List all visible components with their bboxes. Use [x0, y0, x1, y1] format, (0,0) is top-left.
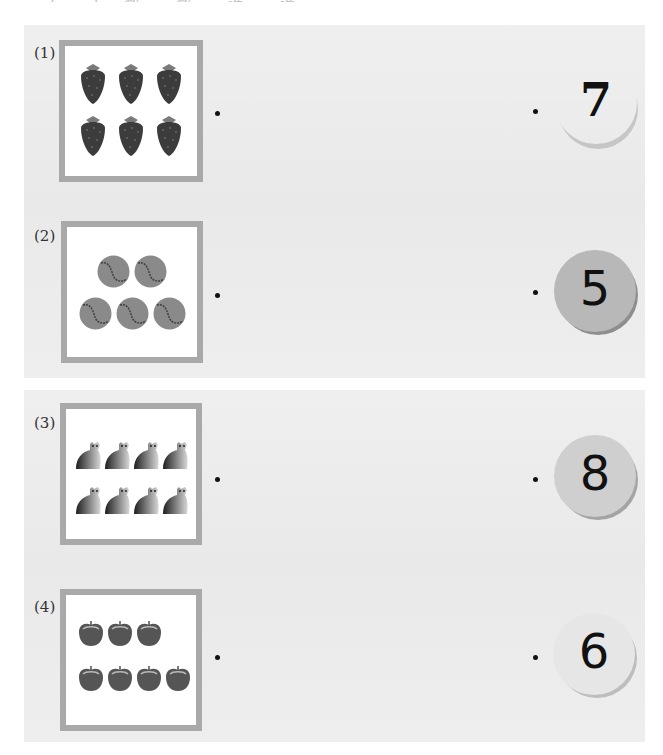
polar-bear-icon [74, 440, 102, 471]
problem-2: (2) 5 [0, 210, 663, 385]
match-dot-left[interactable] [215, 477, 220, 482]
tennis-ball-icon [97, 255, 130, 288]
match-dot-right[interactable] [533, 477, 538, 482]
apple-icon [78, 621, 104, 647]
number-value: 8 [580, 445, 611, 501]
polar-bear-icon [132, 485, 160, 516]
polar-bear-icon [103, 485, 131, 516]
polar-bear-icon [103, 440, 131, 471]
apple-row [66, 666, 196, 692]
tennis-ball-icon [153, 297, 186, 330]
strawberry-icon [114, 62, 148, 106]
apple-icon [136, 621, 162, 647]
polar-bear-row [66, 440, 196, 471]
picture-frame [59, 40, 203, 182]
apple-icon [165, 666, 191, 692]
strawberry-row [65, 62, 197, 106]
problem-1: (1) 7 [0, 25, 663, 200]
match-dot-right[interactable] [533, 655, 538, 660]
match-dot-right[interactable] [533, 290, 538, 295]
tennis-ball-row [67, 297, 197, 330]
tennis-ball-icon [79, 297, 112, 330]
number-badge: 6 [553, 613, 635, 695]
polar-bear-icon [74, 485, 102, 516]
polar-bear-icon [161, 485, 189, 516]
tennis-ball-icon [134, 255, 167, 288]
number-value: 6 [579, 623, 610, 679]
strawberry-icon [76, 114, 110, 158]
tennis-ball-row [67, 255, 197, 288]
problem-3: (3) 8 [0, 395, 663, 570]
strawberry-row [65, 114, 197, 158]
apple-icon [107, 621, 133, 647]
problem-label: (2) [34, 227, 55, 245]
apple-icon [107, 666, 133, 692]
match-dot-left[interactable] [215, 111, 220, 116]
number-badge: 8 [554, 435, 636, 517]
tennis-ball-icon [116, 297, 149, 330]
apple-icon [78, 666, 104, 692]
problem-4: (4) 6 [0, 580, 663, 755]
apple-icon [136, 666, 162, 692]
problem-label: (1) [34, 44, 55, 62]
number-value: 7 [580, 73, 612, 127]
strawberry-icon [152, 62, 186, 106]
match-dot-left[interactable] [215, 293, 220, 298]
strawberry-icon [76, 62, 110, 106]
strawberry-icon [114, 114, 148, 158]
number-value: 5 [580, 260, 611, 316]
match-dot-right[interactable] [533, 109, 538, 114]
number-badge: 7 [555, 62, 637, 144]
polar-bear-icon [132, 440, 160, 471]
picture-frame [60, 403, 202, 545]
polar-bear-row [66, 485, 196, 516]
strawberry-icon [152, 114, 186, 158]
polar-bear-icon [161, 440, 189, 471]
picture-frame [60, 589, 202, 731]
picture-frame [61, 221, 203, 363]
apple-row [66, 621, 196, 647]
match-dot-left[interactable] [215, 655, 220, 660]
problem-label: (3) [34, 414, 55, 432]
problem-label: (4) [34, 598, 55, 616]
number-badge: 5 [554, 250, 636, 332]
clipped-instruction-text: (一) 数一数，连一连 [50, 0, 490, 2]
